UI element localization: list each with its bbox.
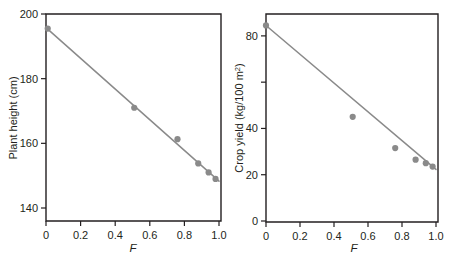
x-tick-label: 1.0: [211, 229, 226, 241]
x-tick-label: 0.2: [292, 230, 307, 242]
regression-line: [266, 25, 436, 169]
x-axis-title-right: F: [350, 242, 358, 254]
y-tick-label: 40: [246, 122, 258, 134]
fit-line-right: [266, 25, 436, 169]
tick-labels-left: 14016018020000.20.40.60.81.0: [20, 8, 227, 241]
data-point: [131, 105, 137, 111]
x-tick-label: 0: [263, 230, 269, 242]
x-axis-title-left: F: [129, 242, 137, 254]
axes-right: [261, 14, 438, 227]
plot-right: 020408000.20.40.60.81.0 Crop yield (kg/1…: [226, 0, 453, 276]
y-tick-label: 160: [20, 137, 38, 149]
y-tick-label: 20: [246, 169, 258, 181]
fit-line-left: [46, 28, 219, 182]
data-point: [195, 160, 201, 166]
data-point: [174, 136, 180, 142]
axes-left: [41, 14, 221, 226]
x-tick-label: 0.4: [108, 229, 123, 241]
x-tick-label: 1.0: [428, 230, 443, 242]
x-tick-label: 0.8: [177, 229, 192, 241]
data-point: [413, 157, 419, 163]
data-point: [263, 22, 269, 28]
y-axis-title-right: Crop yield (kg/100 m2): [233, 63, 246, 172]
plot-frame: [46, 14, 221, 221]
y-tick-label: 0: [252, 215, 258, 227]
data-point: [430, 164, 436, 170]
data-point: [392, 145, 398, 151]
chart-panel-left: 14016018020000.20.40.60.81.0 Plant heigh…: [0, 0, 226, 276]
figure-container: 14016018020000.20.40.60.81.0 Plant heigh…: [0, 0, 453, 276]
tick-labels-right: 020408000.20.40.60.81.0: [246, 30, 444, 242]
plot-left: 14016018020000.20.40.60.81.0 Plant heigh…: [0, 0, 226, 276]
data-point: [350, 114, 356, 120]
x-tick-label: 0.6: [142, 229, 157, 241]
x-tick-label: 0.6: [360, 230, 375, 242]
x-tick-label: 0: [43, 229, 49, 241]
y-tick-label: 80: [246, 30, 258, 42]
x-tick-label: 0.2: [73, 229, 88, 241]
data-point: [206, 169, 212, 175]
data-point: [45, 25, 51, 31]
y-tick-label: 200: [20, 8, 38, 20]
x-tick-label: 0.4: [326, 230, 341, 242]
data-point: [212, 176, 218, 182]
chart-panel-right: 020408000.20.40.60.81.0 Crop yield (kg/1…: [226, 0, 453, 276]
y-tick-label: 140: [20, 202, 38, 214]
data-point: [423, 160, 429, 166]
y-axis-title-left: Plant height (cm): [7, 76, 19, 159]
x-tick-label: 0.8: [394, 230, 409, 242]
regression-line: [46, 28, 219, 182]
y-tick-label: 180: [20, 73, 38, 85]
